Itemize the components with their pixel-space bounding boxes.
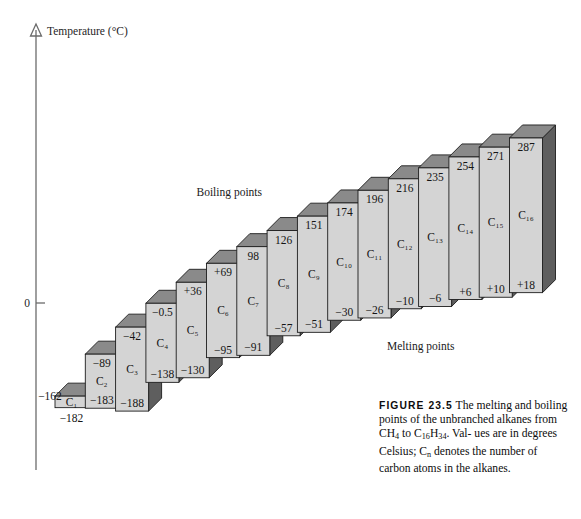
boiling-points-annotation: Boiling points [197,186,263,199]
bar-side-face [543,125,556,293]
bar-label-C7: C₇ [247,295,259,307]
caption-sub-n: n [427,450,431,459]
boiling-value-C1: −162 [38,390,62,402]
melting-value-C15: +10 [487,283,505,295]
melting-value-C11: −26 [366,304,384,316]
boiling-value-C3: −42 [123,330,141,342]
melting-value-C9: −51 [305,318,323,330]
bars-layer: −162−182C₁−89−183C₂−42−188C₃−0.5−138C₄+3… [38,125,555,424]
caption-line6: atoms in the alkanes. [413,462,510,475]
boiling-value-C7: 98 [248,250,260,262]
bar-label-C13: C₁₃ [427,231,443,243]
figure-caption: FIGURE 23.5 The melting and boiling poin… [379,399,569,476]
y-axis [31,24,46,470]
bar-label-C16: C₁₆ [518,209,534,221]
boiling-value-C9: 151 [305,219,323,231]
bar-label-C6: C₆ [217,304,229,316]
caption-line3-d: . Val- [447,427,472,440]
melting-value-C10: −30 [335,306,353,318]
melting-value-C4: −138 [151,368,175,380]
bar-label-C14: C₁₄ [458,222,474,234]
caption-sub-34: 34 [438,432,446,441]
figure-number: FIGURE 23.5 [379,400,453,411]
zero-tick-label: 0 [24,297,30,309]
bar-label-C5: C₅ [187,324,199,336]
caption-line3-b: to C [399,427,422,440]
boiling-value-C16: 287 [517,141,535,153]
melting-value-C8: −57 [275,322,293,334]
bar-label-C3: C₃ [126,363,138,375]
melting-value-C14: +6 [459,286,471,298]
boiling-value-C2: −89 [93,357,111,369]
boiling-value-C15: 271 [487,150,505,162]
bar-label-C8: C₈ [278,277,290,289]
boiling-value-C4: −0.5 [152,306,173,318]
melting-value-C13: −6 [429,292,441,304]
boiling-value-C13: 235 [426,171,444,183]
bar-label-C12: C₁₂ [397,238,413,250]
bar-label-C11: C₁₁ [367,248,383,260]
melting-value-C1: −182 [60,412,84,424]
bar-label-C4: C₄ [157,337,169,349]
bar-label-C9: C₉ [308,268,320,280]
bar-label-C10: C₁₀ [336,256,352,268]
melting-value-C6: −95 [214,344,232,356]
melting-value-C12: −10 [396,295,414,307]
melting-value-C3: −188 [120,397,144,409]
caption-sub-16: 16 [422,432,430,441]
bar-label-C1: C₁ [66,396,78,408]
boiling-value-C5: +36 [184,285,202,297]
boiling-value-C10: 174 [336,206,354,218]
boiling-value-C6: +69 [214,266,232,278]
boiling-value-C8: 126 [275,234,293,246]
melting-value-C7: −91 [244,341,262,353]
boiling-value-C12: 216 [396,182,414,194]
melting-value-C2: −183 [90,394,114,406]
caption-line1: The melting and [456,399,532,412]
bar-label-C15: C₁₅ [488,216,504,228]
melting-value-C16: +18 [517,279,535,291]
boiling-value-C11: 196 [366,193,384,205]
y-axis-title: Temperature (°C) [47,25,128,38]
boiling-value-C14: 254 [457,160,475,172]
melting-value-C5: −130 [181,364,205,376]
melting-points-annotation: Melting points [387,340,455,353]
bar-label-C2: C₂ [96,375,108,387]
